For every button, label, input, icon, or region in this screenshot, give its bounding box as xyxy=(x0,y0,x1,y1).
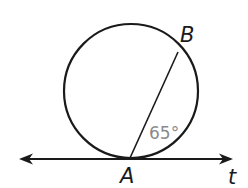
line-label-t: t xyxy=(228,165,237,188)
point-label-b: B xyxy=(180,23,194,47)
angle-label: 65° xyxy=(149,123,179,143)
point-label-a: A xyxy=(118,164,134,188)
geometry-diagram: B A t 65° xyxy=(0,0,248,188)
